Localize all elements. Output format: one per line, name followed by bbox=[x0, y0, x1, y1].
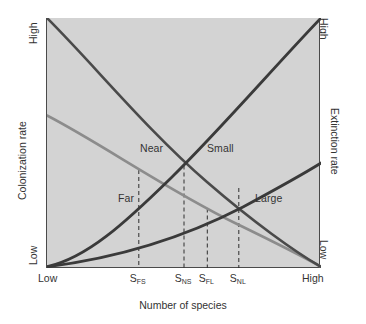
x-axis-title: Number of species bbox=[0, 299, 366, 311]
y-left-axis-title: Colonization rate bbox=[16, 121, 28, 200]
y-right-axis-title: Extinction rate bbox=[329, 108, 341, 175]
y-left-high-label: High bbox=[27, 22, 39, 44]
x-tick-label-S_NS: SNS bbox=[175, 272, 192, 284]
curve-label-large: Large bbox=[255, 192, 282, 204]
x-tick-label-S_FL: SFL bbox=[199, 272, 214, 284]
x-low-label: Low bbox=[38, 272, 57, 284]
x-tick-label-S_FS: SFS bbox=[130, 272, 146, 284]
x-tick-label-S_NL: SNL bbox=[230, 272, 246, 284]
curve-label-far: Far bbox=[118, 192, 134, 204]
island-biogeography-figure: High Low Colonization rate High Low Exti… bbox=[0, 0, 366, 324]
curves-svg bbox=[47, 18, 321, 268]
curve-label-near: Near bbox=[140, 142, 163, 154]
plot-area: Near Small Far Large bbox=[46, 18, 320, 268]
y-left-low-label: Low bbox=[27, 246, 39, 265]
curve-label-small: Small bbox=[207, 142, 234, 154]
x-high-label: High bbox=[302, 272, 324, 284]
